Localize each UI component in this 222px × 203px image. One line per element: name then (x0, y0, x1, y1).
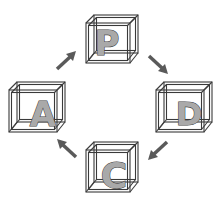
cube-a-letter: A (30, 94, 57, 134)
cube-d-letter: D (176, 95, 203, 133)
cube-a: A (7, 80, 69, 136)
cube-c: C (84, 140, 142, 196)
arrow-a-to-p-icon (54, 50, 78, 72)
cube-p-letter: P (95, 23, 120, 63)
arrow-p-to-d-icon (146, 53, 170, 75)
cube-d: D (154, 80, 216, 136)
cube-c-letter: C (101, 155, 127, 196)
cube-p: P (84, 13, 142, 67)
pdca-diagram: P A (0, 0, 222, 203)
arrow-c-to-a-icon (55, 138, 79, 160)
arrow-d-to-c-icon (146, 139, 170, 161)
